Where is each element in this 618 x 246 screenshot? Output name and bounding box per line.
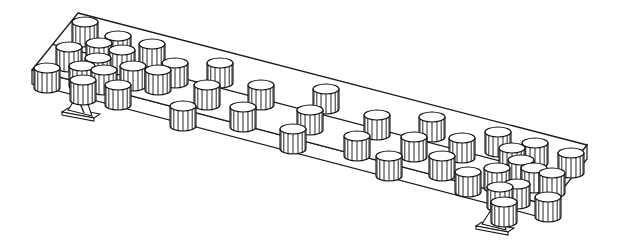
cylinder-weight <box>170 101 196 131</box>
cylinder-weight <box>455 167 481 197</box>
cylinder-weight <box>145 65 171 95</box>
cylinder-weight <box>491 197 517 227</box>
cylinder-weight <box>401 132 427 162</box>
cylinder-weight <box>280 124 306 154</box>
cylinder-weight <box>429 151 455 181</box>
cylinder-weight <box>344 131 370 161</box>
beam-drawing <box>0 0 618 246</box>
beam-diagram: Isometric line drawing of a long rectang… <box>0 0 618 246</box>
cylinder-weights <box>34 17 584 227</box>
cylinder-weight <box>194 80 220 110</box>
cylinder-weight <box>230 102 256 132</box>
cylinder-weight <box>105 80 131 110</box>
cylinder-weight <box>70 75 96 105</box>
cylinder-weight <box>376 151 402 181</box>
cylinder-weight <box>535 192 561 222</box>
cylinder-weight <box>34 63 60 93</box>
